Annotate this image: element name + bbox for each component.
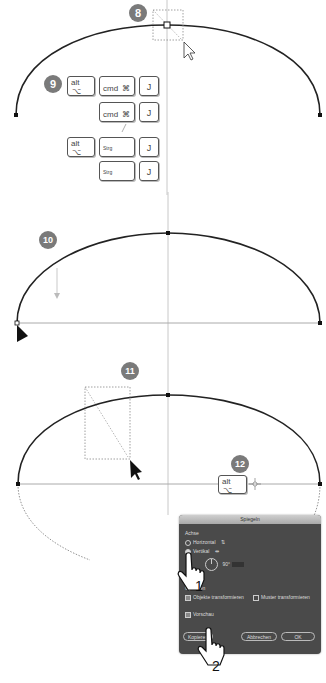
copy-button[interactable]: Kopieren	[183, 632, 213, 641]
key-ctrl-3: Strg	[99, 137, 135, 157]
radio-horizontal-circle[interactable]	[185, 540, 191, 546]
hand-annotation-2: 2	[212, 658, 220, 674]
step-badge-11: 11	[121, 362, 139, 380]
command-symbol-icon-2: ⌘	[122, 110, 130, 119]
checkbox-preview[interactable]: Vorschau	[185, 611, 214, 618]
checkbox-transform-patterns-label: Muster transformieren	[261, 594, 310, 600]
key-j-label: J	[140, 82, 158, 92]
key-j-2: J	[139, 102, 159, 122]
hand-annotation-1: 1	[195, 578, 203, 594]
axis-section-label: Achse	[185, 530, 199, 536]
anchor-top-2[interactable]	[166, 231, 170, 235]
checkbox-transform-patterns-box[interactable]	[253, 595, 259, 601]
radio-horizontal-label: Horizontal	[193, 539, 216, 545]
angle-row: 90°	[205, 558, 244, 571]
radio-vertical[interactable]: Vertikal ⇹	[185, 548, 219, 555]
command-symbol-icon: ⌘	[122, 84, 130, 93]
arc-path-3	[18, 395, 320, 484]
checkbox-transform-objects-box[interactable]	[185, 595, 191, 601]
key-j: J	[139, 76, 159, 96]
arc-path	[16, 25, 320, 115]
cancel-button[interactable]: Abbrechen	[241, 632, 277, 641]
drag-direction-2	[85, 387, 128, 457]
key-alt-label-3: alt	[71, 139, 79, 148]
step-badge-9: 9	[44, 75, 62, 93]
step-badge-12: 12	[231, 455, 249, 473]
key-alt-3: alt ⌥	[67, 137, 95, 157]
direct-selection-cursor-icon	[17, 325, 28, 342]
radio-vertical-circle[interactable]	[185, 549, 191, 555]
anchor-left[interactable]	[14, 113, 18, 117]
vertical-axis-icon: ⇹	[215, 548, 219, 554]
checkbox-transform-objects[interactable]: Objekte transformieren	[185, 594, 244, 601]
key-alt-step12: alt ⌥	[218, 475, 247, 494]
angle-dial-icon[interactable]	[205, 558, 218, 571]
key-ctrl-label-3: Strg	[103, 145, 112, 151]
option-symbol-icon: ⌥	[72, 87, 81, 96]
key-alt-label: alt	[71, 78, 79, 87]
key-j-4: J	[139, 161, 159, 181]
dialog-titlebar[interactable]: Spiegeln	[179, 515, 321, 524]
ok-button[interactable]: OK	[281, 632, 315, 641]
key-cmd-2: cmd ⌘	[99, 102, 135, 122]
option-symbol-icon-step12: ⌥	[223, 486, 232, 495]
anchor-top-3[interactable]	[166, 393, 170, 397]
key-j-label-2: J	[140, 108, 158, 118]
key-ctrl-label-4: Strg	[103, 169, 112, 175]
key-j-label-3: J	[140, 143, 158, 153]
mirrored-arc-preview-left	[18, 484, 90, 560]
angle-value: 90°	[222, 561, 230, 567]
key-j-3: J	[139, 137, 159, 157]
key-j-label-4: J	[140, 167, 158, 177]
step-badge-10: 10	[39, 231, 57, 249]
cursor-arrow-icon	[184, 42, 195, 60]
checkbox-transform-objects-label: Objekte transformieren	[193, 594, 244, 600]
anchor-top-selected[interactable]	[164, 22, 170, 28]
anchor-left-2[interactable]	[15, 321, 19, 325]
selection-cursor-icon	[130, 460, 142, 480]
key-cmd-label: cmd	[103, 84, 118, 93]
horizontal-axis-icon: ⇅	[221, 539, 225, 545]
anchor-right[interactable]	[318, 113, 322, 117]
angle-input[interactable]	[232, 562, 244, 567]
shortcut-separator-line	[122, 124, 126, 132]
key-alt: alt ⌥	[67, 76, 95, 96]
checkbox-transform-patterns[interactable]: Muster transformieren	[253, 594, 310, 601]
anchor-right-2[interactable]	[318, 321, 322, 325]
key-alt-label-step12: alt	[222, 477, 230, 486]
key-cmd-label-2: cmd	[103, 110, 118, 119]
key-ctrl-4: Strg	[99, 161, 135, 181]
drag-down-arrow-icon	[54, 293, 60, 299]
anchor-left-3[interactable]	[16, 482, 20, 486]
option-symbol-icon-3: ⌥	[72, 148, 81, 157]
radio-vertical-label: Vertikal	[193, 548, 209, 554]
checkbox-preview-box[interactable]	[185, 612, 191, 618]
radio-horizontal[interactable]: Horizontal ⇅	[185, 539, 225, 546]
checkbox-preview-label: Vorschau	[193, 611, 214, 617]
key-cmd: cmd ⌘	[99, 76, 135, 96]
step-badge-8: 8	[129, 4, 147, 22]
anchor-right-3[interactable]	[318, 482, 322, 486]
